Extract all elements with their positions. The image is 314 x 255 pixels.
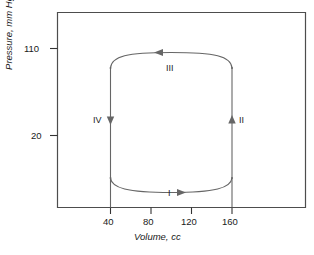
x-axis-ticks: [111, 208, 233, 215]
phase-label-1: I: [168, 189, 171, 198]
x-tick-label-40: 40: [103, 217, 114, 227]
x-axis-title: Volume, cc: [134, 232, 181, 242]
y-axis-ticks: [50, 49, 58, 136]
loop-junction-markers: [110, 67, 233, 179]
y-axis-title: Pressure, mm Hg: [4, 0, 14, 78]
pv-loop-curve: [111, 53, 233, 208]
x-tick-label-160: 160: [222, 217, 238, 227]
x-tick-label-120: 120: [181, 217, 197, 227]
phase-label-4: IV: [93, 116, 102, 125]
arrow-right-phase-1: [177, 189, 186, 196]
arrow-left-phase-3: [154, 49, 163, 56]
arrow-down-phase-4: [107, 117, 114, 126]
x-tick-label-80: 80: [143, 217, 154, 227]
plot-frame: [58, 13, 306, 208]
phase-label-3: III: [166, 64, 174, 73]
pressure-volume-loop-figure: 110 20 40 80 120 160 Pressure, mm Hg Vol…: [0, 0, 314, 255]
plot-canvas: [0, 0, 314, 255]
arrow-up-phase-2: [228, 115, 235, 124]
phase-label-2: II: [239, 116, 244, 125]
y-tick-label-20: 20: [31, 131, 42, 141]
y-tick-label-110: 110: [24, 44, 39, 54]
bottom-curve: [111, 178, 233, 193]
